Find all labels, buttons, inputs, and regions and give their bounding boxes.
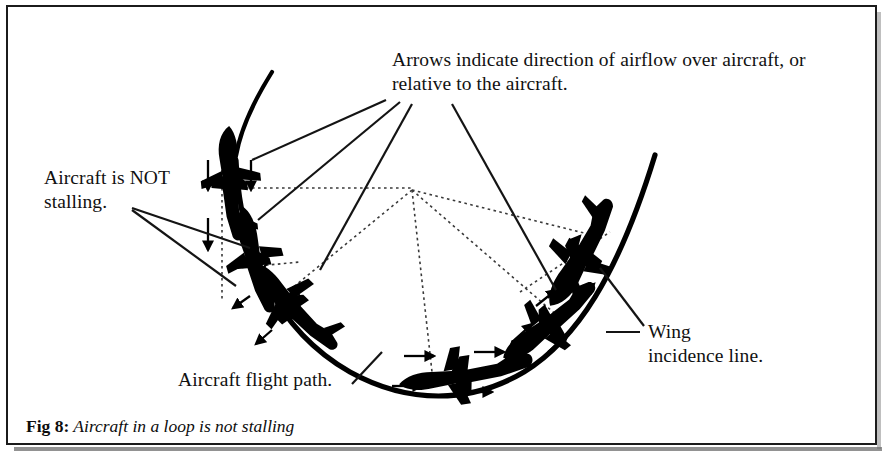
annotation-flight-path: Aircraft flight path. xyxy=(178,368,332,392)
annotation-not-stalling: Aircraft is NOT stalling. xyxy=(44,166,170,213)
page-shadow-right xyxy=(877,12,881,449)
figure-caption-body: Aircraft in a loop is not stalling xyxy=(73,416,294,436)
figure-container: Arrows indicate direction of airflow ove… xyxy=(0,0,889,466)
figure-caption: Fig 8: Aircraft in a loop is not stallin… xyxy=(26,416,294,437)
page-shadow-bottom xyxy=(14,447,882,451)
annotation-arrows-note: Arrows indicate direction of airflow ove… xyxy=(392,48,806,95)
annotation-wing-incidence: Wing incidence line. xyxy=(648,320,763,367)
figure-caption-label: Fig 8: xyxy=(26,416,69,436)
